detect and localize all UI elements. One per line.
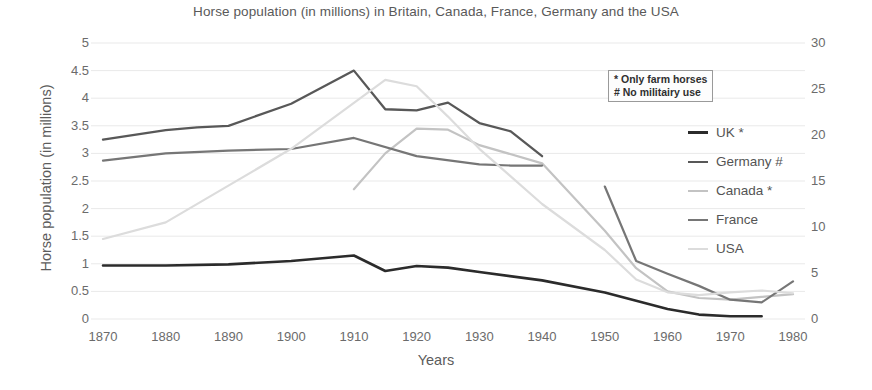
y-tick-right-30: 30 [811, 35, 851, 50]
x-tick-1900: 1900 [261, 329, 321, 344]
legend-item-germany[interactable]: Germany # [688, 147, 783, 176]
legend-swatch-icon [688, 190, 708, 192]
y-tick-left-2: 2 [49, 201, 89, 216]
legend-label: USA [716, 241, 744, 256]
y-tick-left-3: 3 [49, 145, 89, 160]
legend-label: France [716, 212, 758, 227]
x-tick-1970: 1970 [700, 329, 760, 344]
y-tick-left-4: 4 [49, 90, 89, 105]
chart-note-box: * Only farm horses # No militairy use [608, 70, 713, 102]
y-tick-left-1: 1 [49, 256, 89, 271]
series-line-france [103, 138, 542, 166]
legend-item-usa[interactable]: USA [688, 234, 783, 263]
series-line-uk [103, 256, 762, 317]
y-tick-left-5: 5 [49, 35, 89, 50]
note-line-military-use: # No militairy use [614, 86, 707, 99]
x-tick-1910: 1910 [324, 329, 384, 344]
y-tick-right-25: 25 [811, 81, 851, 96]
y-tick-right-10: 10 [811, 219, 851, 234]
legend-swatch-icon [688, 161, 708, 163]
y-tick-left-1.5: 1.5 [49, 228, 89, 243]
legend-item-canada[interactable]: Canada * [688, 176, 783, 205]
legend-swatch-icon [688, 219, 708, 221]
legend-swatch-icon [688, 248, 708, 250]
legend-item-uk[interactable]: UK * [688, 118, 783, 147]
x-tick-1920: 1920 [387, 329, 447, 344]
y-tick-right-0: 0 [811, 311, 851, 326]
x-tick-1940: 1940 [512, 329, 572, 344]
y-tick-left-3.5: 3.5 [49, 118, 89, 133]
legend-label: UK * [716, 125, 744, 140]
x-tick-1980: 1980 [763, 329, 823, 344]
chart-container: Horse population (in millions) in Britai… [0, 0, 872, 390]
y-tick-left-4.5: 4.5 [49, 63, 89, 78]
x-tick-1960: 1960 [638, 329, 698, 344]
x-tick-1890: 1890 [198, 329, 258, 344]
note-line-farm-horses: * Only farm horses [614, 73, 707, 86]
y-tick-right-20: 20 [811, 127, 851, 142]
x-tick-1950: 1950 [575, 329, 635, 344]
y-tick-right-5: 5 [811, 265, 851, 280]
legend-label: Germany # [716, 154, 783, 169]
y-tick-left-0.5: 0.5 [49, 283, 89, 298]
y-tick-right-15: 15 [811, 173, 851, 188]
x-tick-1930: 1930 [449, 329, 509, 344]
y-tick-left-0: 0 [49, 311, 89, 326]
y-tick-left-2.5: 2.5 [49, 173, 89, 188]
legend-swatch-icon [688, 131, 708, 134]
chart-legend: UK *Germany #Canada *FranceUSA [688, 118, 783, 263]
legend-label: Canada * [716, 183, 772, 198]
x-tick-1880: 1880 [136, 329, 196, 344]
legend-item-france[interactable]: France [688, 205, 783, 234]
x-tick-1870: 1870 [73, 329, 133, 344]
